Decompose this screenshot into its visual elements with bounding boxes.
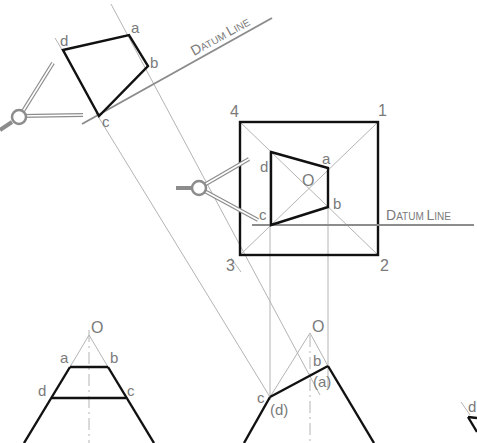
top-view: 4 1 3 2 O d a b c DATUM LINE [176,102,474,400]
mid-label-c: c [257,389,265,406]
datum-line-label-top: DATUM LINE [386,207,451,223]
corner-label-4: 4 [230,103,239,120]
front-view-left: O a b d c [24,319,154,443]
left-label-b: b [110,349,118,366]
mid-label-b: b [313,352,321,369]
auxiliary-section-polygon [63,35,148,116]
aux-label-b: b [150,54,158,71]
datum-line-label-aux: DATUM LINE [188,13,253,59]
top-label-b: b [333,195,341,212]
corner-label-2: 2 [380,257,389,274]
apex-label-O: O [302,172,314,189]
left-apex-label-O: O [91,319,103,336]
mid-apex-label-O: O [312,318,324,335]
compass-hinge-icon [12,110,26,124]
left-label-d: d [38,382,46,399]
aux-label-a: a [131,19,140,36]
corner-label-3: 3 [226,257,235,274]
svg-text:DATUM LINE: DATUM LINE [188,13,253,59]
mid-label-d-hidden: (d) [270,401,288,418]
left-label-a: a [60,349,69,366]
svg-text:DATUM LINE: DATUM LINE [386,207,451,223]
top-label-c: c [259,206,267,223]
top-section-polygon [271,152,328,225]
corner-label-1: 1 [378,102,387,119]
top-label-d: d [260,158,268,175]
auxiliary-view-drawing: d a b c DATUM LINE 4 1 3 2 O d a [0,0,477,443]
mid-label-a-hidden: (a) [313,373,331,390]
top-label-a: a [322,150,331,167]
datum-line-auxiliary [82,18,272,124]
aux-label-d: d [60,32,68,49]
compass-hinge-icon [192,181,206,195]
front-view-middle: O b (a) c (d) [244,318,374,443]
front-view-right-partial: d [461,398,477,432]
left-label-c: c [127,382,135,399]
projection-lines [55,4,320,397]
right-label-d: d [468,398,476,415]
aux-label-c: c [102,113,110,130]
